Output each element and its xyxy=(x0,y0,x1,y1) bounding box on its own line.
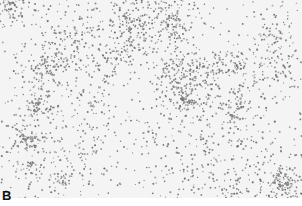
micrograph-image xyxy=(0,0,302,198)
panel-label: B xyxy=(2,189,11,203)
figure-panel: B xyxy=(0,0,302,206)
